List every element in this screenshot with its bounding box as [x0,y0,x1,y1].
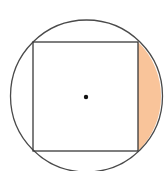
center-point [84,95,88,99]
inscribed-square-diagram [0,0,167,171]
shaded-circular-segment [138,42,161,151]
